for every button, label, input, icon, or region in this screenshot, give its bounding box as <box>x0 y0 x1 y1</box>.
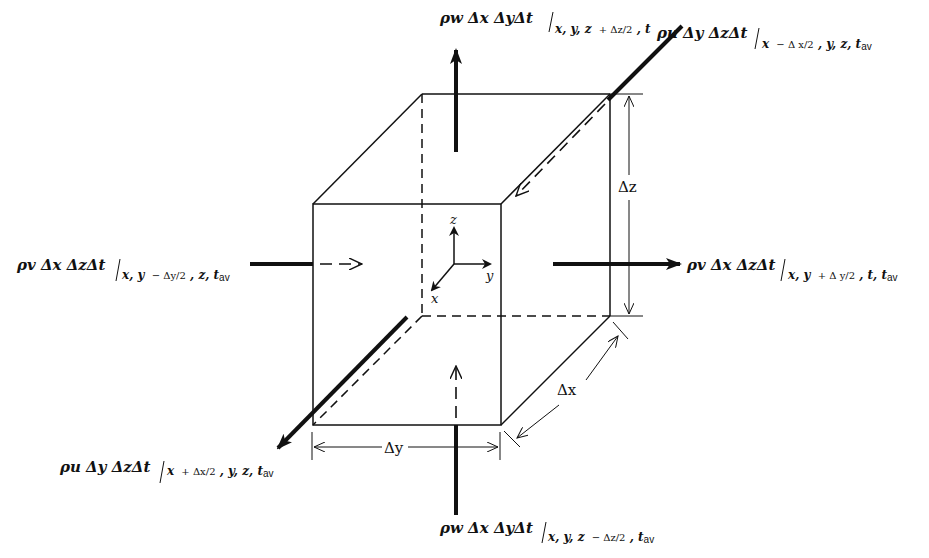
dx-dimension-upper <box>586 336 618 380</box>
dx-extension-bottom <box>504 431 520 447</box>
y-axis-label: y <box>485 268 494 283</box>
svg-text:ρw Δx ΔyΔt: ρw Δx ΔyΔt <box>439 9 533 27</box>
svg-text:x, y + Δ y/2 , t,: x, y + Δ y/2 , t, tav <box>787 268 898 283</box>
left-flux-expression: ρv Δx ΔzΔt <box>16 256 106 274</box>
evaluation-bar <box>549 12 553 32</box>
dy-label: Δy <box>384 439 404 457</box>
svg-text:x + Δx/2 , y, z, t: x + Δx/2 , y, z, tav <box>166 464 274 479</box>
bottom-flux-label: ρw Δx ΔyΔt x, y, z − Δz/2 , tav <box>439 519 654 545</box>
svg-text:ρu Δy ΔzΔt: ρu Δy ΔzΔt <box>59 458 150 476</box>
svg-text:x − Δ x/2 , y, z,: x − Δ x/2 , y, z, tav <box>761 37 872 52</box>
evaluation-bar <box>116 259 120 281</box>
dz-label: Δz <box>618 178 637 196</box>
evaluation-bar <box>542 522 546 543</box>
right-flux-expression: ρv Δx ΔzΔt <box>686 256 776 274</box>
top-flux-expression: ρw Δx ΔyΔt <box>439 9 533 27</box>
front-flux-expression: ρu Δy ΔzΔt <box>59 458 150 476</box>
cube-bottom-right-edge <box>501 316 610 425</box>
cube-front-face <box>313 204 501 425</box>
x-axis-arrow <box>432 264 454 290</box>
svg-text:ρv Δx ΔzΔt: ρv Δx ΔzΔt <box>16 256 106 274</box>
cube-top-right-edge <box>501 94 610 204</box>
front-flux-arrow <box>278 317 407 448</box>
back-flux-label: ρu Δy ΔzΔt x − Δ x/2 , y, z, tav <box>656 24 872 52</box>
top-flux-label: ρw Δx ΔyΔt x, y, z + Δz/2 , t <box>439 9 651 36</box>
evaluation-bar <box>781 259 785 281</box>
svg-text:x, y − Δy/2 , z, t: x, y − Δy/2 , z, tav <box>121 268 230 283</box>
svg-text:ρw Δx ΔyΔt: ρw Δx ΔyΔt <box>439 519 533 537</box>
evaluation-bar <box>160 461 164 483</box>
right-flux-label: ρv Δx ΔzΔt x, y + Δ y/2 , t, tav <box>686 256 898 283</box>
control-volume-diagram: z y x Δz Δy Δx ρw Δx ΔyΔt x, y, z + Δz/2… <box>0 0 929 558</box>
svg-text:ρv Δx ΔzΔt: ρv Δx ΔzΔt <box>686 256 776 274</box>
svg-text:ρu Δy ΔzΔt: ρu Δy ΔzΔt <box>656 24 747 42</box>
svg-text:x, y, z − Δz/2 , t: x, y, z − Δz/2 , tav <box>547 530 654 545</box>
cube <box>313 94 610 425</box>
coordinate-axes <box>432 228 490 290</box>
flux-arrows <box>250 26 682 515</box>
dimension-lines <box>312 94 643 460</box>
dx-label: Δx <box>557 381 577 399</box>
front-flux-label: ρu Δy ΔzΔt x + Δx/2 , y, z, tav <box>59 458 274 483</box>
cube-top-left-edge <box>313 94 422 204</box>
left-flux-label: ρv Δx ΔzΔt x, y − Δy/2 , z, tav <box>16 256 230 283</box>
back-flux-expression: ρu Δy ΔzΔt <box>656 24 747 42</box>
back-flux-arrow-dashed <box>516 104 605 196</box>
x-axis-label: x <box>431 291 439 306</box>
dx-dimension-lower <box>517 405 559 438</box>
svg-text:x, y, z + Δz/2 , t: x, y, z + Δz/2 , t <box>554 22 651 36</box>
evaluation-bar <box>755 28 759 49</box>
z-axis-label: z <box>449 212 457 227</box>
dx-extension-top <box>613 322 628 339</box>
bottom-flux-expression: ρw Δx ΔyΔt <box>439 519 533 537</box>
